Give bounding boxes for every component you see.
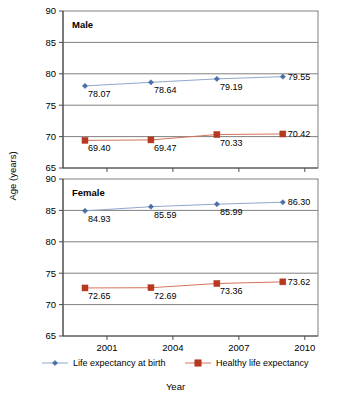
- x-axis-title: Year: [166, 381, 185, 392]
- x-tick-label-2001: 2001: [96, 342, 117, 353]
- data-label: 73.62: [288, 277, 311, 287]
- data-point-marker: [280, 131, 286, 137]
- data-label: 69.47: [154, 143, 177, 153]
- chart-legend: Life expectancy at birthHealthy life exp…: [42, 358, 309, 368]
- panel-title-male: Male: [72, 19, 93, 30]
- data-label: 78.64: [154, 85, 177, 95]
- data-label: 70.33: [220, 138, 243, 148]
- legend-label: Life expectancy at birth: [73, 358, 166, 368]
- y-tick-label-75: 75: [45, 268, 56, 279]
- data-label: 79.19: [220, 82, 243, 92]
- y-tick-label-65: 65: [45, 162, 56, 173]
- y-tick-label-90: 90: [45, 5, 56, 16]
- legend-marker: [52, 360, 57, 365]
- y-tick-label-80: 80: [45, 236, 56, 247]
- y-tick-label-75: 75: [45, 100, 56, 111]
- y-tick-label-90: 90: [45, 173, 56, 184]
- data-label: 78.07: [88, 89, 111, 99]
- data-label: 72.65: [88, 291, 111, 301]
- x-tick-label-2007: 2007: [228, 342, 249, 353]
- legend-marker: [195, 360, 201, 366]
- y-tick-label-85: 85: [45, 205, 56, 216]
- data-label: 70.42: [288, 129, 311, 139]
- panel-male: 657075808590Male78.0778.6479.1979.5569.4…: [45, 5, 318, 173]
- data-label: 73.36: [220, 286, 243, 296]
- data-label: 79.55: [288, 72, 311, 82]
- legend-label: Healthy life expectancy: [216, 358, 309, 368]
- y-tick-label-70: 70: [45, 299, 56, 310]
- y-axis-title: Age (years): [7, 151, 18, 200]
- legend-item-life-expectancy-at-birth: Life expectancy at birth: [42, 358, 166, 368]
- legend-item-healthy-life-expectancy: Healthy life expectancy: [185, 358, 309, 368]
- y-tick-label-85: 85: [45, 37, 56, 48]
- data-label: 85.99: [220, 207, 243, 217]
- panel-female: 657075808590Female84.9385.5985.9986.3072…: [45, 173, 318, 341]
- y-tick-label-65: 65: [45, 330, 56, 341]
- data-point-marker: [280, 279, 286, 285]
- life-expectancy-chart: 657075808590Male78.0778.6479.1979.5569.4…: [0, 0, 342, 400]
- chart-figure: 657075808590Male78.0778.6479.1979.5569.4…: [0, 0, 342, 400]
- x-tick-label-2004: 2004: [162, 342, 183, 353]
- y-tick-label-70: 70: [45, 131, 56, 142]
- data-label: 85.59: [154, 210, 177, 220]
- panel-title-female: Female: [72, 187, 105, 198]
- data-label: 86.30: [288, 197, 311, 207]
- data-label: 72.69: [154, 291, 177, 301]
- y-tick-label-80: 80: [45, 68, 56, 79]
- x-tick-label-2010: 2010: [294, 342, 315, 353]
- data-label: 84.93: [88, 214, 111, 224]
- data-label: 69.40: [88, 143, 111, 153]
